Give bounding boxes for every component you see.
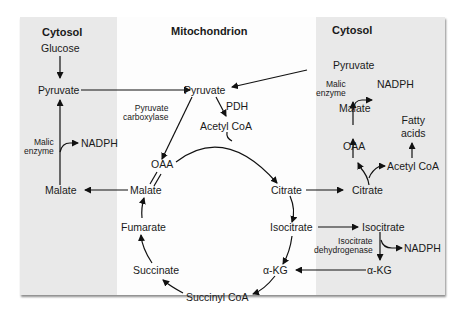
isocitrate-dehydrogenase-label: Isocitrate dehydrogenase xyxy=(314,237,373,255)
pyruvate-carboxylase-label: Pyruvate carboxylase xyxy=(123,104,168,122)
citrate-to-isocitrate-arrow xyxy=(290,196,294,222)
glucose-label: Glucose xyxy=(41,43,80,54)
fatty-acids-label: Fatty acids xyxy=(401,114,426,139)
right-cytosol-title: Cytosol xyxy=(332,25,372,36)
right-malate-label: Malate xyxy=(339,103,371,114)
mito-malate-label: Malate xyxy=(130,185,162,196)
mitochondrion-title: Mitochondrion xyxy=(171,26,247,37)
mito-citrate-label: Citrate xyxy=(271,185,302,196)
right-nadph-bottom-label: NADPH xyxy=(404,243,441,254)
right-citrate-label: Citrate xyxy=(352,185,383,196)
left-nadph-branch xyxy=(60,143,78,152)
left-nadph-label: NADPH xyxy=(81,138,118,149)
right-pyruvate-label: Pyruvate xyxy=(333,60,374,71)
left-pyruvate-label: Pyruvate xyxy=(38,85,79,96)
pdh-arrow xyxy=(216,97,226,116)
succinylcoa-to-succinate-arrow xyxy=(163,280,183,293)
right-nadph-top-label: NADPH xyxy=(377,79,414,90)
mito-akg-label: α-KG xyxy=(263,265,288,276)
succinate-label: Succinate xyxy=(133,265,179,276)
acetyl-coa-join xyxy=(227,132,232,141)
akg-to-succinylcoa-arrow xyxy=(253,276,275,294)
right-acetyl-coa-label: Acetyl CoA xyxy=(387,161,439,172)
fumarate-to-malate-arrow xyxy=(142,198,144,218)
fumarate-label: Fumarate xyxy=(121,222,166,233)
right-oaa-label: OAA xyxy=(343,141,365,152)
citrate-to-acetylcoa-arrow xyxy=(369,166,385,178)
isocitrate-to-akg-arrow xyxy=(283,236,292,264)
mito-oaa-label: OAA xyxy=(151,159,173,170)
pdh-label: PDH xyxy=(226,101,248,112)
mito-pyruvate-label: Pyruvate xyxy=(184,85,225,96)
mito-acetyl-coa-label: Acetyl CoA xyxy=(200,121,252,132)
right-akg-label: α-KG xyxy=(367,265,392,276)
succinate-to-fumarate-arrow xyxy=(141,235,152,263)
mito-isocitrate-label: Isocitrate xyxy=(270,222,313,233)
citrate-to-oaa-arrow xyxy=(358,163,369,185)
right-pyruvate-to-mito-arrow xyxy=(232,70,307,87)
succinyl-coa-label: Succinyl CoA xyxy=(186,292,248,303)
right-nadph-bottom-branch xyxy=(381,240,402,248)
left-malate-label: Malate xyxy=(45,185,77,196)
oaa-to-citrate-arrow xyxy=(176,147,277,183)
left-cytosol-title: Cytosol xyxy=(42,27,82,38)
right-malic-enzyme-label: Malic enzyme xyxy=(316,80,346,98)
right-isocitrate-label: Isocitrate xyxy=(362,222,405,233)
left-malic-enzyme-label: Malic enzyme xyxy=(24,138,54,156)
